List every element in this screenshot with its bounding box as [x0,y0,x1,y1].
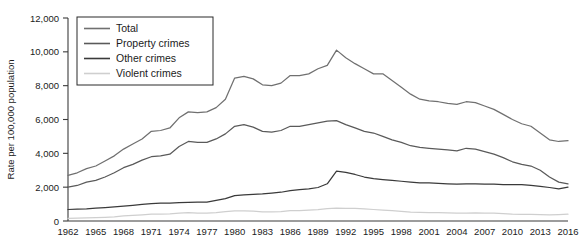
y-tick-label: 8,000 [35,80,59,91]
y-tick-marks [63,18,68,221]
x-tick-labels: 1962196519681971197419771980198319861989… [57,226,578,237]
y-axis-title: Rate per 100,000 population [5,60,16,180]
x-tick-label: 1974 [169,226,190,237]
x-tick-label: 1965 [85,226,106,237]
chart-legend: TotalProperty crimesOther crimesViolent … [77,17,213,85]
x-tick-label: 2007 [474,226,495,237]
legend-label-other-crimes: Other crimes [116,52,176,64]
x-tick-label: 1986 [280,226,301,237]
crime-rate-line-chart: 02,0004,0006,0008,00010,00012,000 Rate p… [0,0,582,249]
chart-canvas: 02,0004,0006,0008,00010,00012,000 Rate p… [0,0,582,249]
series-line-other-crimes [68,171,568,209]
x-tick-label: 1992 [335,226,356,237]
y-tick-labels: 02,0004,0006,0008,00010,00012,000 [30,13,59,227]
legend-label-property-crimes: Property crimes [116,37,190,49]
x-tick-label: 1989 [307,226,328,237]
y-tick-label: 2,000 [35,182,59,193]
x-tick-label: 2004 [446,226,467,237]
legend-label-total: Total [116,22,138,34]
x-tick-label: 1980 [224,226,245,237]
x-tick-label: 1971 [141,226,162,237]
y-tick-label: 12,000 [30,13,59,24]
x-tick-label: 2013 [530,226,551,237]
x-tick-label: 2001 [419,226,440,237]
series-line-violent-crimes [68,208,568,218]
x-tick-label: 2016 [557,226,578,237]
y-tick-label: 0 [54,216,59,227]
y-tick-label: 10,000 [30,46,59,57]
x-tick-label: 1998 [391,226,412,237]
x-axis-group: 1962196519681971197419771980198319861989… [57,221,578,237]
series-line-property-crimes [68,121,568,187]
x-tick-label: 1962 [57,226,78,237]
x-tick-label: 1977 [196,226,217,237]
x-tick-label: 1983 [252,226,273,237]
legend-label-violent-crimes: Violent crimes [116,67,182,79]
y-tick-label: 4,000 [35,148,59,159]
x-tick-label: 1995 [363,226,384,237]
y-axis-group: 02,0004,0006,0008,00010,00012,000 Rate p… [5,13,68,227]
y-tick-label: 6,000 [35,114,59,125]
x-tick-label: 1968 [113,226,134,237]
x-tick-label: 2010 [502,226,523,237]
